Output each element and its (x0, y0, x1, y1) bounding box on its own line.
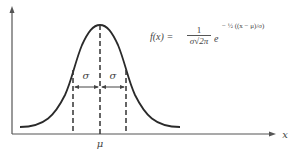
formula-lhs: f(x) = (150, 31, 173, 42)
formula-base: e (214, 33, 218, 44)
arrowhead-icon (101, 85, 106, 89)
formula-exponent: − ½ ((x − μ)/σ) (222, 22, 264, 30)
x-axis-arrow-icon (269, 132, 276, 137)
formula-coefficient: 1 σ√2π (186, 25, 212, 47)
x-axis-label: x (282, 129, 288, 140)
arrowhead-icon (120, 85, 125, 89)
y-axis-arrow-icon (10, 6, 15, 13)
arrowhead-icon (94, 85, 99, 89)
coef-denominator: σ√2π (186, 36, 212, 47)
mean-label: μ (97, 138, 104, 149)
sigma-right-label: σ (110, 70, 118, 81)
coef-numerator: 1 (186, 25, 212, 35)
arrowhead-icon (74, 85, 79, 89)
sigma-left-label: σ (83, 70, 91, 81)
